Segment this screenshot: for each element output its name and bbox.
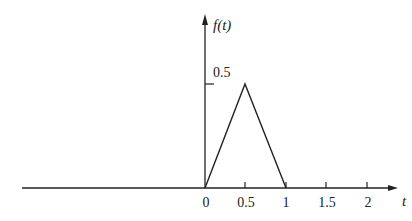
x-tick-label: 0 xyxy=(203,195,210,210)
triangle-curve xyxy=(205,84,286,188)
x-tick-label: 1 xyxy=(283,195,290,210)
x-tick-label: 1.5 xyxy=(318,195,336,210)
y-tick-label: 0.5 xyxy=(213,65,231,80)
x-axis-arrow-icon xyxy=(388,185,398,191)
y-axis-label: f(t) xyxy=(213,17,231,34)
x-ticks xyxy=(245,182,367,188)
x-tick-label: 0.5 xyxy=(237,195,255,210)
x-axis-label: t xyxy=(402,193,407,209)
x-tick-label: 2 xyxy=(365,195,372,210)
triangle-pulse-chart: f(t) 0.5 t 0 0.5 1 1.5 2 xyxy=(0,0,412,221)
y-axis-arrow-icon xyxy=(202,14,208,25)
